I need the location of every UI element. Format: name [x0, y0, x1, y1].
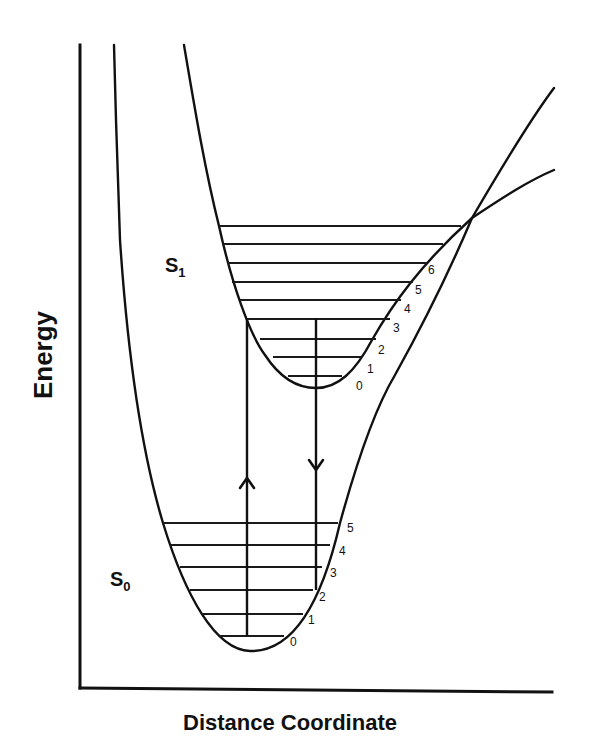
s1-level-number: 1	[367, 362, 374, 376]
s1-label-main: S	[165, 254, 178, 276]
s0-level-number: 3	[330, 566, 337, 580]
s1-label-subscript: 1	[178, 265, 185, 280]
s1-level-number: 4	[404, 302, 411, 316]
transitions	[240, 318, 323, 636]
s0-potential-curve	[114, 45, 554, 651]
s0-level-number: 0	[290, 635, 297, 649]
s1-level-number: 5	[415, 283, 422, 297]
s0-label: S0	[110, 568, 131, 594]
s0-label-subscript: 0	[123, 579, 130, 594]
s0-label-main: S	[110, 568, 123, 590]
s1-level-number: 6	[428, 263, 435, 277]
s0-vibrational-levels: 012345	[163, 521, 354, 649]
s0-level-number: 5	[347, 521, 354, 535]
s1-level-number: 0	[356, 379, 363, 393]
x-axis-label: Distance Coordinate	[183, 710, 397, 735]
s0-level-number: 1	[308, 613, 315, 627]
s1-potential-curve	[184, 45, 554, 388]
s1-level-number: 3	[393, 321, 400, 335]
s0-level-number: 4	[339, 544, 346, 558]
x-axis	[80, 688, 552, 692]
s1-vibrational-levels: 0123456	[219, 226, 461, 393]
s0-level-number: 2	[319, 590, 326, 604]
s1-level-number: 2	[378, 343, 385, 357]
energy-diagram: Distance Coordinate Energy 012345 012345…	[0, 0, 591, 750]
s1-label: S1	[165, 254, 186, 280]
y-axis-label: Energy	[28, 310, 58, 399]
